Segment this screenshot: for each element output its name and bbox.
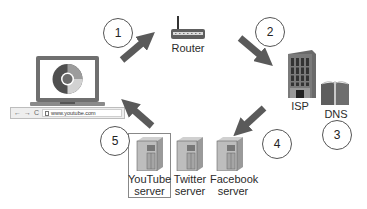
step-4-badge: 4	[262, 129, 292, 159]
step-1-badge: 1	[103, 18, 133, 48]
step-5-badge: 5	[100, 126, 130, 156]
step-3-badge: 3	[322, 120, 352, 150]
step-2-badge: 2	[255, 17, 285, 47]
arrow-step-4	[240, 108, 264, 130]
arrows-layer	[0, 0, 367, 209]
arrow-step-5	[128, 105, 152, 126]
